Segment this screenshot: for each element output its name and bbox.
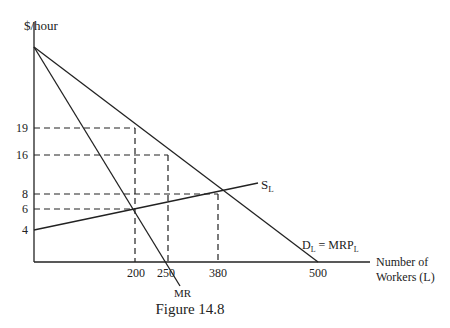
svg-text:SL: SL [261,177,274,194]
supply-line [34,183,258,230]
y-tick: 4 [22,223,28,237]
figure-14-8: $/hour 19 16 8 6 4 200 250 380 500 Numbe… [0,0,450,328]
y-axis-label: $/hour [24,18,59,33]
mr-line [34,47,180,286]
x-tick: 380 [209,266,227,280]
y-tick: 8 [22,187,28,201]
x-tick: 500 [309,266,327,280]
figure-title: Figure 14.8 [155,301,224,317]
x-tick: 200 [127,266,145,280]
supply-label: SL [261,177,274,194]
reference-lines [34,128,218,262]
y-tick: 16 [16,148,28,162]
svg-text:DL = MRPL: DL = MRPL [302,238,359,254]
y-tick: 6 [22,202,28,216]
x-axis-label-line2: Workers (L) [376,270,435,284]
chart-canvas: $/hour 19 16 8 6 4 200 250 380 500 Numbe… [0,0,450,328]
x-tick: 250 [157,266,175,280]
demand-label: DL = MRPL [302,238,359,254]
mr-label: MR [174,287,192,299]
x-axis-label-line1: Number of [376,255,428,269]
y-tick: 19 [16,121,28,135]
